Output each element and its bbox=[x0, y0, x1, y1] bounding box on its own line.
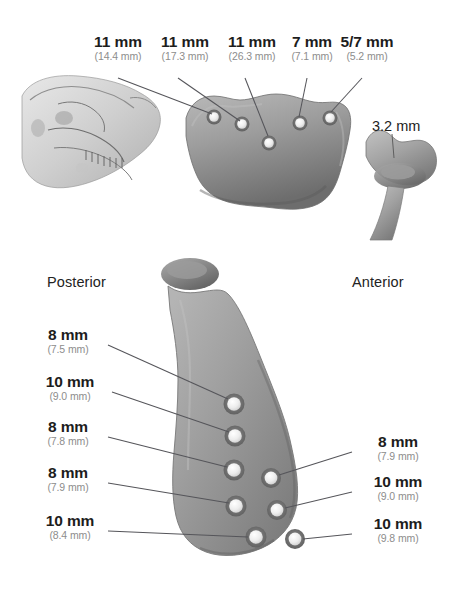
measurement-secondary: (7.9 mm) bbox=[28, 482, 108, 493]
figure-graphics bbox=[0, 0, 463, 591]
measurement-label-ramus-right-1: 8 mm (7.9 mm) bbox=[358, 434, 438, 462]
measurement-label-top-5: 5/7 mm (5.2 mm) bbox=[328, 34, 406, 62]
orientation-label-anterior: Anterior bbox=[352, 274, 404, 290]
measurement-secondary: (5.2 mm) bbox=[328, 51, 406, 62]
measurement-label-ramus-right-2: 10 mm (9.0 mm) bbox=[356, 474, 440, 502]
measurement-secondary: (7.8 mm) bbox=[28, 436, 108, 447]
mandibular-ramus-lateral bbox=[108, 258, 352, 555]
screw-hole bbox=[262, 136, 277, 151]
measurement-label-ramus-left-1: 8 mm (7.5 mm) bbox=[28, 327, 108, 355]
screw-hole bbox=[225, 426, 246, 447]
screw-hole bbox=[207, 110, 222, 125]
condylar-head-fragment bbox=[366, 130, 437, 240]
condyle-bone-plate bbox=[118, 78, 362, 209]
measurement-secondary: (9.0 mm) bbox=[28, 391, 112, 402]
screw-hole bbox=[246, 527, 267, 548]
measurement-primary: 8 mm bbox=[28, 465, 108, 481]
measurement-primary: 10 mm bbox=[356, 474, 440, 490]
measurement-secondary: (9.8 mm) bbox=[356, 533, 440, 544]
measurement-label-ramus-left-2: 10 mm (9.0 mm) bbox=[28, 374, 112, 402]
lateral-skull-radiograph bbox=[22, 76, 160, 188]
measurement-primary: 10 mm bbox=[28, 513, 112, 529]
measurement-primary: 8 mm bbox=[358, 434, 438, 450]
anatomical-figure: 11 mm (14.4 mm) 11 mm (17.3 mm) 11 mm (2… bbox=[0, 0, 463, 591]
screw-hole bbox=[226, 496, 247, 517]
measurement-label-ramus-left-5: 10 mm (8.4 mm) bbox=[28, 513, 112, 541]
fragment-measurement-label: 3.2 mm bbox=[372, 118, 420, 134]
measurement-secondary: (9.0 mm) bbox=[356, 491, 440, 502]
measurement-primary: 8 mm bbox=[28, 327, 108, 343]
measurement-label-ramus-left-3: 8 mm (7.8 mm) bbox=[28, 419, 108, 447]
measurement-secondary: (8.4 mm) bbox=[28, 530, 112, 541]
screw-hole bbox=[293, 116, 308, 131]
measurement-secondary: (7.9 mm) bbox=[358, 451, 438, 462]
screw-hole bbox=[267, 500, 287, 520]
screw-hole bbox=[261, 468, 281, 488]
measurement-primary: 8 mm bbox=[28, 419, 108, 435]
measurement-primary: 5/7 mm bbox=[328, 34, 406, 50]
measurement-secondary: (7.5 mm) bbox=[28, 344, 108, 355]
measurement-label-ramus-left-4: 8 mm (7.9 mm) bbox=[28, 465, 108, 493]
screw-hole bbox=[285, 529, 305, 549]
screw-hole bbox=[323, 111, 338, 126]
measurement-primary: 10 mm bbox=[356, 516, 440, 532]
screw-hole bbox=[224, 394, 245, 415]
orientation-label-posterior: Posterior bbox=[47, 274, 106, 290]
measurement-label-ramus-right-3: 10 mm (9.8 mm) bbox=[356, 516, 440, 544]
measurement-primary: 10 mm bbox=[28, 374, 112, 390]
screw-hole bbox=[224, 460, 245, 481]
